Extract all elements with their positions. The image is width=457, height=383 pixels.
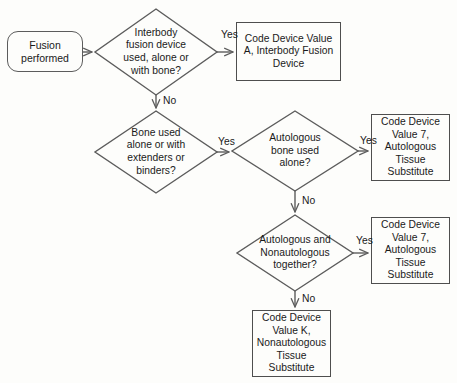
edge-label-d1-no: No [163, 96, 176, 106]
edge-label-d4-yes: Yes [356, 236, 373, 246]
node-code-k-nonautologous: Code Device Value K, Nonautologous Tissu… [252, 310, 331, 377]
decision-shape-d2 [95, 111, 217, 193]
node-code-k-nonautologous-label: Code Device Value K, Nonautologous Tissu… [254, 312, 329, 375]
edge-label-d3-yes: Yes [360, 136, 377, 146]
node-code-7-autologous-top-label: Code Device Value 7, Autologous Tissue S… [378, 116, 443, 179]
decision-shape-d3 [232, 111, 358, 191]
decision-shape-d1 [95, 9, 217, 95]
node-code-a-interbody: Code Device Value A, Interbody Fusion De… [236, 22, 341, 81]
node-start-label: Fusion performed [18, 39, 72, 65]
node-start: Fusion performed [7, 31, 83, 72]
node-code-7-autologous-bottom: Code Device Value 7, Autologous Tissue S… [371, 217, 450, 284]
edge-label-d1-yes: Yes [221, 30, 238, 40]
node-code-7-autologous-bottom-label: Code Device Value 7, Autologous Tissue S… [378, 219, 443, 282]
edge-label-d3-no: No [302, 196, 315, 206]
flowchart-canvas: Fusion performed Interbody fusion device… [0, 0, 457, 383]
node-code-a-interbody-label: Code Device Value A, Interbody Fusion De… [241, 33, 336, 71]
edge-label-d4-no: No [302, 294, 315, 304]
node-code-7-autologous-top: Code Device Value 7, Autologous Tissue S… [371, 114, 450, 181]
decision-shape-d4 [237, 215, 353, 291]
edge-label-d2-yes: Yes [218, 137, 235, 147]
